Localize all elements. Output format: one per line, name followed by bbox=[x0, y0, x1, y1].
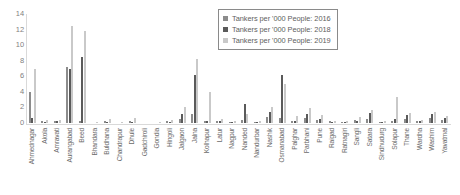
bar bbox=[434, 112, 436, 123]
x-axis-label-cell: Satara bbox=[364, 126, 377, 194]
x-axis-label-cell: Buldhana bbox=[101, 126, 114, 194]
y-axis: 02468101214 bbox=[0, 14, 24, 124]
x-axis-label: Washim bbox=[429, 128, 436, 151]
x-axis-label-cell: Ratnagiri bbox=[339, 126, 352, 194]
bar-group bbox=[126, 14, 139, 123]
x-axis-label-cell: Jalgaon bbox=[176, 126, 189, 194]
x-axis-label: Nagpur bbox=[229, 128, 236, 149]
x-axis-label-cell: Dhule bbox=[126, 126, 139, 194]
x-axis-label: Amravati bbox=[54, 128, 61, 153]
bar bbox=[396, 97, 398, 123]
bar bbox=[446, 116, 448, 123]
x-axis-label: Aurangabad bbox=[66, 128, 73, 162]
bar bbox=[109, 119, 111, 123]
x-axis-label-cell: Jalna bbox=[189, 126, 202, 194]
bar-group bbox=[201, 14, 214, 123]
bar-group bbox=[76, 14, 89, 123]
y-axis-tick: 2 bbox=[0, 103, 24, 111]
x-axis-label-cell: Nagpur bbox=[226, 126, 239, 194]
bar-group bbox=[89, 14, 102, 123]
x-axis-label-cell: Kolhapur bbox=[201, 126, 214, 194]
bar bbox=[59, 120, 61, 123]
bar-chart: 02468101214 AhmednagarAkolaAmravatiAuran… bbox=[0, 0, 460, 195]
x-axis-label-cell: Parbhani bbox=[301, 126, 314, 194]
bar bbox=[246, 114, 248, 123]
bar-group bbox=[189, 14, 202, 123]
chart-legend: Tankers per '000 People: 2016Tankers per… bbox=[218, 9, 338, 50]
bar-group bbox=[151, 14, 164, 123]
x-axis-label: Beed bbox=[79, 128, 86, 143]
legend-label: Tankers per '000 People: 2016 bbox=[232, 15, 331, 22]
x-axis-label: Jalna bbox=[191, 128, 198, 143]
x-axis-label-cell: Yavatmal bbox=[439, 126, 452, 194]
x-axis-label: Ahmednagar bbox=[29, 128, 36, 164]
legend-item[interactable]: Tankers per '000 People: 2019 bbox=[223, 35, 331, 46]
y-axis-tick: 8 bbox=[0, 57, 24, 65]
x-axis-label: Sangli bbox=[354, 128, 361, 145]
bar bbox=[84, 31, 86, 123]
bar-group bbox=[426, 14, 439, 123]
y-axis-tick: 6 bbox=[0, 72, 24, 80]
bar bbox=[71, 26, 73, 123]
bar-group bbox=[164, 14, 177, 123]
bar bbox=[96, 122, 98, 123]
bar bbox=[284, 84, 286, 123]
x-axis-label: Raigad bbox=[329, 128, 336, 148]
x-axis-label: Hingoli bbox=[166, 128, 173, 147]
bar bbox=[171, 120, 173, 123]
bar bbox=[296, 116, 298, 123]
x-axis-label: Wardha bbox=[416, 128, 423, 150]
x-axis-label: Jalgaon bbox=[179, 128, 186, 150]
legend-item[interactable]: Tankers per '000 People: 2016 bbox=[223, 13, 331, 24]
x-axis-label-cell: Aurangabad bbox=[64, 126, 77, 194]
x-axis-label-cell: Wardha bbox=[414, 126, 427, 194]
x-axis-label: Akola bbox=[41, 128, 48, 144]
y-axis-tick: 4 bbox=[0, 88, 24, 96]
bar-group bbox=[114, 14, 127, 123]
bar bbox=[321, 115, 323, 123]
bar bbox=[259, 121, 261, 123]
bar bbox=[46, 120, 48, 123]
bar-group bbox=[401, 14, 414, 123]
x-axis-label-cell: Nanded bbox=[239, 126, 252, 194]
bar-group bbox=[176, 14, 189, 123]
x-axis-label: Nanded bbox=[241, 128, 248, 150]
x-axis-label-cell: Thane bbox=[401, 126, 414, 194]
legend-swatch-icon bbox=[223, 16, 228, 21]
x-axis-label-cell: Sangli bbox=[351, 126, 364, 194]
x-axis-labels: AhmednagarAkolaAmravatiAurangabadBeedBha… bbox=[26, 126, 451, 194]
bar bbox=[421, 120, 423, 123]
y-axis-tick: 14 bbox=[0, 10, 24, 18]
legend-item[interactable]: Tankers per '000 People: 2018 bbox=[223, 24, 331, 35]
x-axis-label-cell: Akola bbox=[39, 126, 52, 194]
bar-group bbox=[389, 14, 402, 123]
x-axis-label-cell: Amravati bbox=[51, 126, 64, 194]
x-axis-label: Bhandara bbox=[91, 128, 98, 155]
x-axis-label: Solapur bbox=[391, 128, 398, 150]
x-axis-label: Yavatmal bbox=[441, 128, 448, 154]
x-axis-label: Kolhapur bbox=[204, 128, 211, 153]
bar bbox=[221, 119, 223, 123]
x-axis-label: Ratnagiri bbox=[341, 128, 348, 153]
bar-group bbox=[64, 14, 77, 123]
bar bbox=[334, 121, 336, 123]
bar bbox=[346, 121, 348, 123]
x-axis-label-cell: Sindhudurg bbox=[376, 126, 389, 194]
x-axis-label: Chandrapur bbox=[116, 128, 123, 161]
x-axis-label-cell: Latur bbox=[214, 126, 227, 194]
x-axis-label: Nashik bbox=[266, 128, 273, 147]
x-axis-label: Latur bbox=[216, 128, 223, 142]
bar bbox=[309, 108, 311, 123]
bar-group bbox=[339, 14, 352, 123]
x-axis-label: Nandurbar bbox=[254, 128, 261, 158]
x-axis-label: Dhule bbox=[129, 128, 136, 144]
x-axis-label: Osmanabad bbox=[279, 128, 286, 163]
x-axis-label-cell: Bhandara bbox=[89, 126, 102, 194]
bar bbox=[359, 117, 361, 123]
x-axis-label-cell: Beed bbox=[76, 126, 89, 194]
bar bbox=[384, 121, 386, 123]
x-axis-label-cell: Ahmednagar bbox=[26, 126, 39, 194]
legend-label: Tankers per '000 People: 2019 bbox=[232, 37, 331, 44]
bar bbox=[196, 59, 198, 123]
bar-group bbox=[26, 14, 39, 123]
